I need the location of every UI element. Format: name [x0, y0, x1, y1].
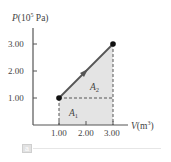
panel-divider: [33, 148, 161, 149]
y-tick-label-3: 3.00: [8, 39, 24, 49]
x-tick-label-2: 2.00: [78, 128, 94, 138]
area-a1-sub: 1: [75, 112, 78, 119]
x-tick-label-1: 1.00: [51, 128, 67, 138]
x-axis-label: V(m3): [131, 120, 154, 132]
x-tick-label-3: 3.00: [104, 128, 120, 138]
x-axis-units: (m: [137, 121, 148, 132]
state-point-final: [110, 41, 116, 47]
area-a2-sub: 2: [96, 86, 99, 93]
y-axis-label: P(105 Pa): [11, 12, 49, 24]
shaded-area: [59, 44, 113, 125]
state-point-initial: [56, 95, 62, 101]
y-axis-units-end: Pa): [33, 13, 48, 24]
x-axis-units-end: ): [150, 121, 153, 132]
panel-tag: a: [22, 144, 32, 153]
y-tick-label-2: 2.00: [8, 66, 24, 76]
y-tick-label-1: 1.00: [8, 93, 24, 103]
pv-diagram: 3.00 2.00 1.00 1.00 2.00 3.00 P(105 Pa) …: [0, 0, 171, 162]
y-axis-units: (10: [18, 13, 31, 24]
